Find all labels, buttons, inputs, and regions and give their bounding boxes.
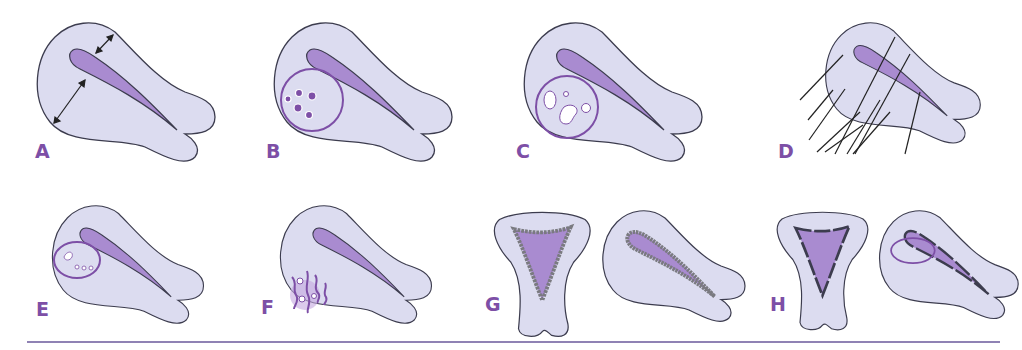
panel-label: D <box>778 142 794 161</box>
uterus-sagittal-illustration <box>262 22 462 162</box>
panel-f: F <box>270 205 470 345</box>
panel-label: G <box>485 295 501 314</box>
uterus-sagittal-illustration <box>270 205 470 345</box>
panel-label: C <box>516 142 530 161</box>
uterus-sagittal-illustration <box>25 22 225 162</box>
panel-e: E <box>42 205 242 345</box>
panel-label: F <box>261 298 274 317</box>
bottom-divider <box>27 341 1000 343</box>
panel-label: A <box>35 142 50 161</box>
panel-label: H <box>770 295 786 314</box>
uterus-sagittal-illustration <box>770 210 1020 340</box>
uterus-sagittal-illustration <box>42 205 242 345</box>
panel-g: G <box>485 210 765 340</box>
panel-c: C <box>512 22 712 162</box>
panel-h: H <box>770 210 1020 340</box>
uterus-sagittal-illustration <box>795 22 995 162</box>
panel-a: A <box>25 22 225 162</box>
panel-label: E <box>36 300 49 319</box>
uterus-sagittal-illustration <box>512 22 712 162</box>
panel-b: B <box>262 22 462 162</box>
uterus-sagittal-illustration <box>485 210 765 340</box>
panel-label: B <box>266 142 280 161</box>
panel-d: D <box>795 22 995 162</box>
